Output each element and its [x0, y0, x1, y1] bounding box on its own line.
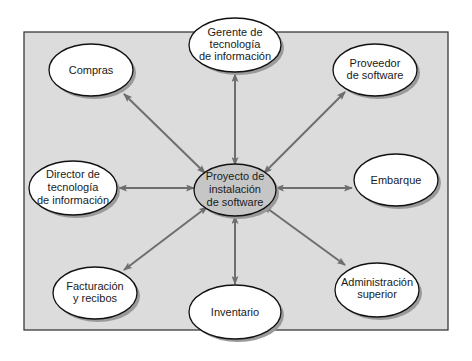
center-label: de software [207, 196, 264, 208]
node-label: y recibos [73, 292, 118, 304]
node-label: Gerente de [207, 26, 262, 38]
node-label: Compras [69, 64, 114, 76]
node-label: Facturación [66, 280, 123, 292]
node-label: de información [37, 194, 109, 206]
node-label: Administración [341, 276, 413, 288]
node-label: de software [347, 69, 404, 81]
node-label: Embarque [371, 174, 422, 186]
node-label: tecnología [210, 38, 262, 50]
node-inventario: Inventario [189, 285, 284, 342]
node-label: de información [199, 50, 271, 62]
node-label: tecnología [48, 181, 100, 193]
node-label: Proveedor [350, 57, 401, 69]
stakeholder-diagram: Gerente de tecnología de información Com… [0, 0, 472, 361]
node-label: superior [357, 288, 397, 300]
node-label: Inventario [211, 306, 259, 318]
center-label: Proyecto de [206, 170, 265, 182]
center-label: instalación [209, 183, 261, 195]
node-label: Director de [46, 168, 100, 180]
